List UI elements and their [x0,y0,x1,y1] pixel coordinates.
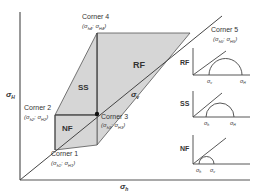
inset-rf-label: RF [180,59,190,66]
inset-nf-label: NF [180,145,190,152]
svg-text:Corner 2: Corner 2 [24,104,51,111]
inset-nf-tick-2: σv [210,167,215,174]
inset-nf: NF σh σv [180,135,250,174]
svg-text:(σh5; σH5): (σh5; σH5) [213,36,237,44]
corner-2-label: Corner 2 (σh2; σH2) [24,104,51,122]
region-ss-label: SS [78,83,89,92]
corner-5-label: Corner 5 (σh5; σH5) [211,26,238,44]
svg-text:(σh1; σH1): (σh1; σH1) [51,160,75,168]
inset-ss: SS σh σH [180,91,250,127]
inset-rf-mohr-circle [209,59,242,76]
inset-ss-tick-2: σH [230,120,236,127]
svg-text:Corner 3: Corner 3 [101,113,128,120]
corner-3-dot [95,112,99,116]
stress-regime-diagram: σH σh σv RF SS NF Corner 1 (σh1; σH1) Co… [0,0,256,193]
inset-rf: RF σv σH [180,48,250,85]
svg-text:Corner 5: Corner 5 [211,26,238,33]
y-axis-label: σH [6,90,15,100]
inset-nf-tick-1: σh [196,167,201,174]
region-nf-label: NF [62,124,73,133]
region-ss-fill [55,33,97,115]
x-axis-label: σh [120,182,128,192]
inset-ss-label: SS [180,100,190,107]
corner-3-label: Corner 3 (σh3; σH3) [101,113,128,130]
inset-ss-envelope [193,93,222,117]
svg-text:(σh4; σH4): (σh4; σH4) [82,23,106,31]
inset-nf-envelope [193,138,226,164]
inset-ss-tick-1: σh [204,120,209,127]
inset-rf-tick-1: σv [207,78,212,85]
inset-ss-mohr-circle [206,103,234,117]
region-rf-label: RF [133,60,145,70]
svg-text:Corner 1: Corner 1 [51,150,78,157]
svg-text:Corner 4: Corner 4 [82,13,109,20]
svg-text:(σh2; σH2): (σh2; σH2) [24,114,48,122]
corner-4-label: Corner 4 (σh4; σH4) [82,13,109,31]
corner-1-label: Corner 1 (σh1; σH1) [51,150,78,168]
inset-rf-tick-2: σH [240,78,246,85]
